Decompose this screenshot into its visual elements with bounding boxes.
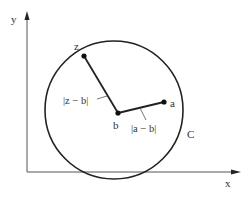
point-z <box>81 53 86 58</box>
point-z-label: z <box>74 40 79 52</box>
y-axis-label: y <box>11 13 17 25</box>
point-a <box>161 99 166 104</box>
circle-label: C <box>187 128 194 140</box>
circle-c <box>45 41 183 179</box>
complex-plane-diagram: y x C |z − b| |a − b| z b a <box>0 0 252 201</box>
segment-z-b-label: |z − b| <box>63 95 88 106</box>
segment-a-b <box>118 102 164 113</box>
segment-z-b <box>84 56 118 113</box>
y-axis-arrow-icon <box>25 11 30 20</box>
segment-a-b-label: |a − b| <box>131 123 156 134</box>
point-b <box>115 110 120 115</box>
point-b-label: b <box>113 119 119 131</box>
point-a-label: a <box>170 97 175 109</box>
x-axis-arrow-icon <box>231 170 241 175</box>
leader-z-b <box>97 96 107 99</box>
leader-a-b <box>140 108 146 120</box>
x-axis-label: x <box>225 177 231 189</box>
